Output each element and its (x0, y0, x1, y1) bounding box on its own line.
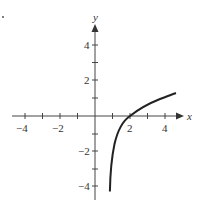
y-tick-label-m2: −2 (78, 145, 90, 157)
y-axis-arrow-icon (92, 24, 99, 32)
y-tick-label-p4: 4 (84, 39, 90, 51)
x-tick-label-p4: 4 (162, 122, 168, 134)
x-tick-label-m4: −4 (16, 122, 28, 134)
x-tick-label-p2: 2 (127, 122, 133, 134)
y-tick-label-p2: 2 (84, 74, 90, 86)
y-tick-label-m4: −4 (78, 180, 90, 192)
function-curve (110, 93, 176, 192)
function-graph: −4 −2 2 4 4 2 −2 −4 x y (0, 0, 202, 212)
y-axis-label: y (92, 11, 98, 23)
x-axis-arrow-icon (176, 113, 184, 120)
x-axis-label: x (186, 110, 192, 122)
x-tick-label-m2: −2 (52, 122, 64, 134)
